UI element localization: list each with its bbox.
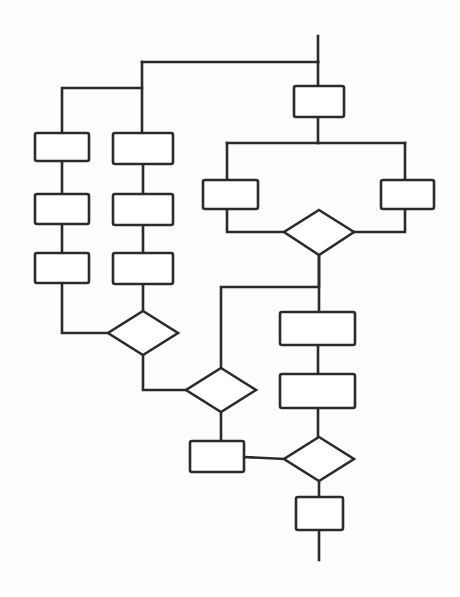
decision-node-2[interactable] [108, 311, 178, 355]
process-node-15[interactable] [280, 374, 355, 408]
edge-col2-bar-to-col1 [62, 88, 142, 133]
decision-node-1[interactable] [284, 210, 354, 255]
decision-node-4[interactable] [284, 437, 354, 481]
process-node-6[interactable] [35, 194, 89, 224]
process-node-14[interactable] [280, 312, 355, 345]
node-layer [35, 86, 434, 530]
edge-decision2-to-decision3 [143, 355, 186, 390]
connector-layer [62, 36, 405, 560]
edge-node3-to-decision1 [354, 209, 405, 232]
flowchart-canvas [0, 0, 460, 597]
process-node-1[interactable] [294, 86, 344, 117]
edge-node13-to-decision4 [244, 457, 284, 459]
edge-col1-node7-to-decision2 [62, 283, 108, 333]
process-node-8[interactable] [113, 133, 173, 164]
process-node-2[interactable] [203, 180, 258, 209]
process-node-17[interactable] [296, 497, 343, 530]
process-node-9[interactable] [113, 194, 173, 225]
process-node-3[interactable] [381, 180, 434, 209]
process-node-13[interactable] [190, 441, 244, 472]
flowchart-diagram [0, 0, 460, 597]
process-node-7[interactable] [35, 253, 89, 283]
edge-node2-to-decision1 [227, 209, 284, 232]
process-node-5[interactable] [35, 133, 89, 161]
decision-node-3[interactable] [186, 368, 256, 412]
process-node-10[interactable] [113, 253, 173, 284]
